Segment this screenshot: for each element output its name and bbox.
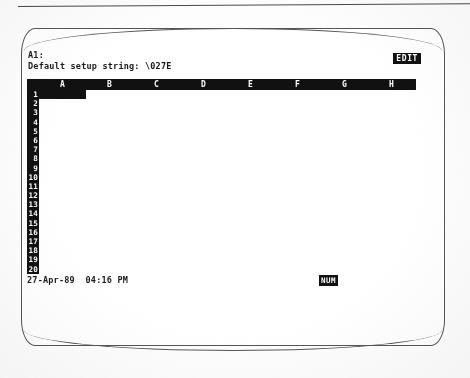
- mode-indicator-edit: EDIT: [393, 53, 421, 64]
- row-number[interactable]: 13: [27, 200, 39, 209]
- row-number[interactable]: 7: [27, 145, 39, 154]
- row-number[interactable]: 5: [27, 127, 39, 136]
- row-number[interactable]: 1: [27, 90, 39, 99]
- edit-input-line[interactable]: Default setup string: \027E: [28, 61, 419, 72]
- row-number[interactable]: 16: [27, 228, 39, 237]
- status-datetime: 27-Apr-89 04:16 PM: [27, 275, 128, 286]
- column-header-bar: A B C D E F G H: [27, 79, 416, 90]
- row-number[interactable]: 18: [27, 246, 39, 255]
- row-number[interactable]: 20: [27, 265, 39, 274]
- cell-reference-line: A1:: [28, 50, 419, 61]
- row-number[interactable]: 14: [27, 209, 39, 218]
- status-line: 27-Apr-89 04:16 PM NUM: [27, 275, 416, 287]
- row-number[interactable]: 9: [27, 164, 39, 173]
- row-number[interactable]: 4: [27, 118, 39, 127]
- column-header-b[interactable]: B: [86, 79, 133, 90]
- worksheet: A B C D E F G H 1 2 3 4 5 6 7 8 9 10 11 …: [27, 79, 419, 274]
- row-number-gutter: 1 2 3 4 5 6 7 8 9 10 11 12 13 14 15 16 1…: [27, 90, 39, 274]
- cell-grid-area[interactable]: [39, 90, 419, 274]
- row-number[interactable]: 8: [27, 154, 39, 163]
- row-number[interactable]: 3: [27, 108, 39, 117]
- worksheet-corner-box: [27, 79, 39, 90]
- cell-cursor-a1[interactable]: [39, 90, 86, 99]
- column-header-c[interactable]: C: [133, 79, 180, 90]
- row-number[interactable]: 10: [27, 173, 39, 182]
- column-header-e[interactable]: E: [227, 79, 274, 90]
- row-number[interactable]: 6: [27, 136, 39, 145]
- row-number[interactable]: 19: [27, 255, 39, 264]
- row-number[interactable]: 15: [27, 219, 39, 228]
- status-indicator-num: NUM: [319, 275, 338, 286]
- control-panel: A1: Default setup string: \027E EDIT: [27, 50, 419, 76]
- column-header-g[interactable]: G: [321, 79, 368, 90]
- column-header-f[interactable]: F: [274, 79, 321, 90]
- column-header-d[interactable]: D: [180, 79, 227, 90]
- row-number[interactable]: 11: [27, 182, 39, 191]
- row-number[interactable]: 17: [27, 237, 39, 246]
- column-header-a[interactable]: A: [39, 79, 86, 90]
- spreadsheet-terminal: A1: Default setup string: \027E EDIT A B…: [27, 50, 419, 312]
- worksheet-body: 1 2 3 4 5 6 7 8 9 10 11 12 13 14 15 16 1…: [27, 90, 419, 274]
- row-number[interactable]: 12: [27, 191, 39, 200]
- row-number[interactable]: 2: [27, 99, 39, 108]
- column-header-h[interactable]: H: [368, 79, 415, 90]
